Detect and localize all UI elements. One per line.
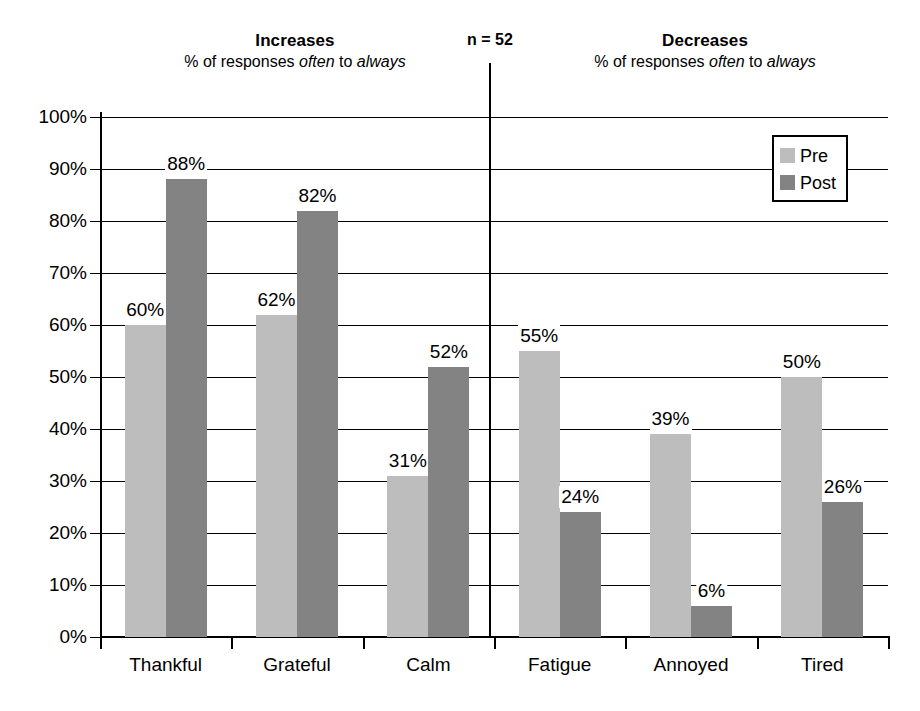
x-axis-label-grateful: Grateful (263, 654, 331, 676)
y-axis-tick (90, 273, 100, 274)
bar-pre-thankful (125, 325, 166, 637)
y-axis-label: 10% (49, 574, 87, 596)
y-axis-label: 20% (49, 522, 87, 544)
decreases-subtitle: % of responses often to always (530, 52, 880, 72)
x-axis-tick (757, 636, 759, 649)
y-axis-label: 90% (49, 158, 87, 180)
plot-area: 0%10%20%30%40%50%60%70%80%90%100%60%88%6… (100, 117, 888, 637)
legend-label-pre: Pre (800, 147, 828, 165)
y-axis-tick (90, 585, 100, 586)
bar-value-label: 26% (822, 476, 864, 498)
bar-value-label: 88% (165, 153, 207, 175)
increases-subtitle-always: always (357, 53, 406, 70)
y-axis-label: 100% (38, 106, 87, 128)
gridline (100, 533, 888, 534)
bar-value-label: 50% (781, 351, 823, 373)
bar-value-label: 52% (428, 341, 470, 363)
y-axis-tick (90, 117, 100, 118)
x-axis-tick (100, 636, 102, 649)
legend-item-post: Post (780, 169, 846, 196)
increases-subtitle: % of responses often to always (130, 52, 460, 72)
x-axis-tick (625, 636, 627, 649)
chart-page: Increases % of responses often to always… (0, 0, 920, 711)
y-axis-label: 80% (49, 210, 87, 232)
gridline (100, 377, 888, 378)
y-axis-tick (90, 429, 100, 430)
bar-pre-calm (387, 476, 428, 637)
y-axis-label: 40% (49, 418, 87, 440)
bar-value-label: 39% (649, 408, 691, 430)
y-axis-label: 60% (49, 314, 87, 336)
bar-value-label: 82% (296, 185, 338, 207)
bar-post-tired (822, 502, 863, 637)
decreases-subtitle-often: often (709, 53, 745, 70)
bar-post-fatigue (560, 512, 601, 637)
x-axis-label-thankful: Thankful (129, 654, 202, 676)
bar-value-label: 55% (518, 325, 560, 347)
decreases-subtitle-always: always (767, 53, 816, 70)
bar-pre-annoyed (650, 434, 691, 637)
gridline (100, 169, 888, 170)
bar-value-label: 62% (255, 289, 297, 311)
x-axis-label-annoyed: Annoyed (653, 654, 728, 676)
bar-pre-grateful (256, 315, 297, 637)
bar-value-label: 31% (387, 450, 429, 472)
y-axis-tick (90, 221, 100, 222)
gridline (100, 429, 888, 430)
increases-subtitle-prefix: % of responses (184, 53, 299, 70)
y-axis-label: 0% (60, 626, 87, 648)
x-axis-tick (888, 636, 890, 649)
bar-pre-tired (781, 377, 822, 637)
gridline (100, 585, 888, 586)
bar-post-annoyed (691, 606, 732, 637)
bar-post-thankful (166, 179, 207, 637)
bar-post-grateful (297, 211, 338, 637)
y-axis-tick (90, 637, 100, 638)
y-axis-tick (90, 169, 100, 170)
decreases-subtitle-middle: to (745, 53, 767, 70)
increases-panel-header: Increases % of responses often to always (130, 30, 460, 72)
x-axis-tick (494, 636, 496, 649)
increases-subtitle-often: often (299, 53, 335, 70)
y-axis-label: 30% (49, 470, 87, 492)
decreases-panel-header: Decreases % of responses often to always (530, 30, 880, 72)
y-axis-tick (90, 325, 100, 326)
y-axis-tick (90, 533, 100, 534)
gridline (100, 481, 888, 482)
decreases-subtitle-prefix: % of responses (594, 53, 709, 70)
chart-legend: Pre Post (772, 135, 848, 202)
y-axis-tick (90, 481, 100, 482)
bar-value-label: 60% (124, 299, 166, 321)
gridline (100, 221, 888, 222)
bar-pre-fatigue (519, 351, 560, 637)
gridline (100, 325, 888, 326)
legend-item-pre: Pre (780, 142, 846, 169)
x-axis-label-fatigue: Fatigue (528, 654, 591, 676)
bar-value-label: 6% (696, 580, 727, 602)
x-axis-tick (363, 636, 365, 649)
x-axis-tick (231, 636, 233, 649)
increases-title: Increases (130, 30, 460, 52)
bar-post-calm (428, 367, 469, 637)
y-axis-tick (90, 377, 100, 378)
increases-subtitle-middle: to (335, 53, 357, 70)
legend-label-post: Post (800, 174, 836, 192)
y-axis-label: 50% (49, 366, 87, 388)
gridline (100, 117, 888, 118)
legend-swatch-post-icon (780, 175, 795, 190)
bar-value-label: 24% (559, 486, 601, 508)
x-axis-label-calm: Calm (406, 654, 450, 676)
gridline (100, 273, 888, 274)
decreases-title: Decreases (530, 30, 880, 52)
y-axis-label: 70% (49, 262, 87, 284)
legend-swatch-pre-icon (780, 148, 795, 163)
x-axis-label-tired: Tired (801, 654, 844, 676)
